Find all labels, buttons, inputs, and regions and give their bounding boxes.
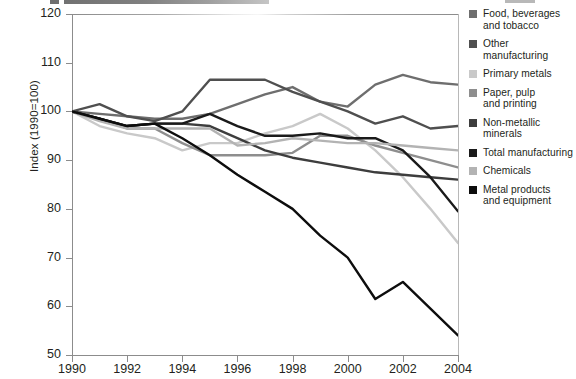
legend-item-total-manufacturing[interactable]: Total manufacturing — [469, 147, 576, 159]
legend-label: Othermanufacturing — [483, 38, 548, 61]
x-tick-label-1996: 1996 — [207, 362, 267, 376]
legend-label: Metal productsand equipment — [483, 184, 551, 207]
legend-label: Food, beveragesand tobacco — [483, 8, 560, 31]
x-tick-1996 — [237, 355, 238, 362]
x-tick-label-2002: 2002 — [373, 362, 433, 376]
legend-item-paper-pulp-and-printing[interactable]: Paper, pulpand printing — [469, 87, 576, 110]
y-tick-label-50: 50 — [17, 347, 61, 361]
cut-off-title-text — [64, 0, 269, 4]
x-tick-1990 — [72, 355, 73, 362]
legend-swatch-icon — [469, 167, 477, 175]
x-tick-label-2000: 2000 — [318, 362, 378, 376]
y-tick-label-90: 90 — [17, 152, 61, 166]
series-line-primary-metals — [72, 111, 458, 243]
legend-item-primary-metals[interactable]: Primary metals — [469, 68, 576, 80]
y-tick-label-80: 80 — [17, 201, 61, 215]
x-axis-line — [72, 355, 459, 356]
legend-swatch-icon — [469, 10, 477, 18]
x-tick-1992 — [127, 355, 128, 362]
legend-swatch-icon — [469, 89, 477, 97]
x-tick-label-1998: 1998 — [263, 362, 323, 376]
y-tick-label-100: 100 — [17, 103, 61, 117]
legend-label: Primary metals — [483, 68, 552, 80]
legend-label: Chemicals — [483, 165, 531, 177]
series-line-paper-pulp-and-printing — [72, 111, 458, 167]
x-tick-1994 — [182, 355, 183, 362]
series-line-other-manufacturing — [72, 80, 458, 129]
plot-right-border — [458, 14, 459, 356]
cut-off-title-text-right — [505, 0, 535, 3]
legend-item-food-beverages-and-tobacco[interactable]: Food, beveragesand tobacco — [469, 8, 576, 31]
series-line-food-beverages-and-tobacco — [72, 75, 458, 119]
legend-item-chemicals[interactable]: Chemicals — [469, 165, 576, 177]
x-tick-2002 — [403, 355, 404, 362]
x-tick-label-2004: 2004 — [428, 362, 488, 376]
legend-swatch-icon — [469, 40, 477, 48]
x-tick-label-1990: 1990 — [42, 362, 102, 376]
plot-area — [72, 14, 458, 355]
x-tick-1998 — [293, 355, 294, 362]
legend-swatch-icon — [469, 70, 477, 78]
y-axis-title: Index (1990=100) — [28, 46, 40, 206]
legend-item-other-manufacturing[interactable]: Othermanufacturing — [469, 38, 576, 61]
x-tick-label-1994: 1994 — [152, 362, 212, 376]
legend-item-non-metallic-minerals[interactable]: Non-metallicminerals — [469, 117, 576, 140]
chart-legend: Food, beveragesand tobaccoOthermanufactu… — [469, 8, 576, 214]
cut-off-legend-swatch — [50, 0, 59, 4]
legend-label: Non-metallicminerals — [483, 117, 540, 140]
x-tick-label-1992: 1992 — [97, 362, 157, 376]
y-tick-label-110: 110 — [17, 55, 61, 69]
y-tick-label-60: 60 — [17, 298, 61, 312]
legend-swatch-icon — [469, 149, 477, 157]
x-tick-2000 — [348, 355, 349, 362]
legend-label: Paper, pulpand printing — [483, 87, 537, 110]
legend-swatch-icon — [469, 119, 477, 127]
legend-label: Total manufacturing — [483, 147, 573, 159]
legend-item-metal-products-and-equipment[interactable]: Metal productsand equipment — [469, 184, 576, 207]
x-tick-2004 — [458, 355, 459, 362]
chart-figure: Index (1990=100) 5060708090100110120 199… — [0, 0, 576, 379]
legend-swatch-icon — [469, 186, 477, 194]
y-tick-label-70: 70 — [17, 250, 61, 264]
y-tick-label-120: 120 — [17, 6, 61, 20]
